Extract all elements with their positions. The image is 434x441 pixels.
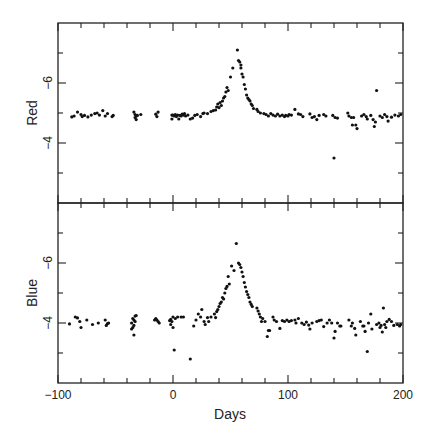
data-point [78, 320, 81, 323]
data-point [192, 324, 195, 327]
data-point [305, 321, 308, 324]
data-point [307, 324, 310, 327]
data-point [339, 324, 342, 327]
data-point [217, 305, 220, 308]
data-point [372, 118, 375, 121]
blue-data-points [68, 242, 402, 361]
data-point [85, 318, 88, 321]
data-point [248, 99, 251, 102]
data-point [134, 320, 137, 323]
data-point [324, 114, 327, 117]
data-point [271, 315, 274, 318]
data-point [228, 282, 231, 285]
data-point [216, 308, 219, 311]
red-ytick-minus6: −6 [41, 76, 55, 90]
data-point [257, 309, 260, 312]
data-point [334, 330, 337, 333]
data-point [225, 285, 228, 288]
data-point [330, 321, 333, 324]
data-point [308, 112, 311, 115]
blue-ytick-minus4: −4 [41, 316, 55, 330]
data-point [176, 315, 179, 318]
data-point [245, 93, 248, 96]
data-point [387, 120, 390, 123]
data-point [393, 114, 396, 117]
data-point [382, 306, 385, 309]
data-point [223, 291, 226, 294]
data-point [369, 312, 372, 315]
data-point [221, 99, 224, 102]
blue-panel-ticks [58, 203, 403, 383]
data-point [381, 330, 384, 333]
data-point [359, 320, 362, 323]
data-point [204, 323, 207, 326]
data-point [383, 323, 386, 326]
data-point [68, 322, 71, 325]
data-point [381, 116, 384, 119]
data-point [294, 321, 297, 324]
data-point [328, 318, 331, 321]
data-point [243, 83, 246, 86]
data-point [247, 296, 250, 299]
data-point [157, 111, 160, 114]
data-point [354, 333, 357, 336]
data-point [231, 66, 234, 69]
data-point [392, 324, 395, 327]
data-point [374, 120, 377, 123]
data-point [259, 111, 262, 114]
data-point [203, 320, 206, 323]
data-point [112, 114, 115, 117]
data-point [206, 112, 209, 115]
data-point [350, 324, 353, 327]
data-point [347, 318, 350, 321]
data-point [238, 263, 241, 266]
data-point [207, 320, 210, 323]
data-point [194, 318, 197, 321]
data-point [242, 75, 245, 78]
data-point [377, 321, 380, 324]
xtick-100: 100 [278, 388, 298, 402]
data-point [203, 111, 206, 114]
data-point [225, 86, 228, 89]
data-point [380, 324, 383, 327]
data-point [364, 330, 367, 333]
data-point [242, 275, 245, 278]
data-point [258, 312, 261, 315]
data-point [132, 324, 135, 327]
data-point [244, 285, 247, 288]
data-point [222, 297, 225, 300]
data-point [177, 117, 180, 120]
data-point [101, 109, 104, 112]
data-point [336, 321, 339, 324]
data-point [107, 321, 110, 324]
data-point [293, 108, 296, 111]
data-point [238, 60, 241, 63]
data-point [255, 306, 258, 309]
data-point [332, 336, 335, 339]
data-point [139, 113, 142, 116]
data-point [135, 314, 138, 317]
data-point [354, 123, 357, 126]
data-point [106, 112, 109, 115]
data-point [375, 89, 378, 92]
data-point [261, 317, 264, 320]
data-point [332, 156, 335, 159]
red-panel-frame [58, 23, 403, 203]
data-point [227, 275, 230, 278]
data-point [240, 72, 243, 75]
data-point [297, 317, 300, 320]
data-point [171, 326, 174, 329]
data-point [186, 114, 189, 117]
data-point [227, 89, 230, 92]
data-point [245, 290, 248, 293]
x-axis-label: Days [214, 406, 246, 422]
data-point [263, 320, 266, 323]
data-point [390, 116, 393, 119]
data-point [370, 327, 373, 330]
data-point [303, 323, 306, 326]
red-ylabel: Red [24, 100, 40, 126]
data-point [293, 318, 296, 321]
data-point [197, 312, 200, 315]
data-point [239, 63, 242, 66]
data-point [352, 116, 355, 119]
